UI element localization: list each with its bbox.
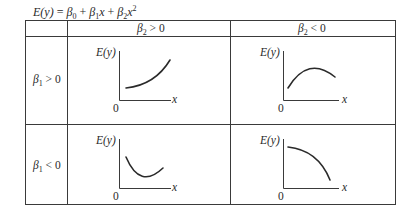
axes-plot-4 <box>284 139 340 189</box>
inequality: > 0 <box>43 73 61 85</box>
curve-concave-decreasing <box>288 147 330 180</box>
x-axis-label: x <box>342 93 347 105</box>
axes-plot-1 <box>120 51 172 101</box>
y-axis-label: E(y) <box>260 134 280 146</box>
origin-label: 0 <box>113 190 119 202</box>
origin-label: 0 <box>278 102 284 114</box>
x-axis-label: x <box>342 181 347 193</box>
column-header-beta2-negative: β2 < 0 <box>298 22 326 37</box>
curve-convex-valley <box>126 157 163 177</box>
x-axis-label: x <box>172 93 177 105</box>
table-outline <box>26 21 396 205</box>
row-header-beta1-positive: β1 > 0 <box>33 73 61 88</box>
table-borders <box>25 20 396 205</box>
inequality: < 0 <box>43 159 61 171</box>
origin-label: 0 <box>278 190 284 202</box>
y-axis-label: E(y) <box>96 134 116 146</box>
curve-convex-increasing <box>126 60 170 88</box>
origin-label: 0 <box>113 102 119 114</box>
inequality: < 0 <box>308 22 326 34</box>
curve-concave-peak <box>288 68 335 88</box>
shape-table-grid <box>0 0 413 216</box>
y-axis-label: E(y) <box>96 46 116 58</box>
inequality: > 0 <box>147 22 165 34</box>
y-axis-label: E(y) <box>260 46 280 58</box>
x-axis-label: x <box>172 181 177 193</box>
axes-plot-3 <box>120 139 172 189</box>
row-header-beta1-negative: β1 < 0 <box>33 159 61 174</box>
plot-axes <box>120 51 340 189</box>
column-header-beta2-positive: β2 > 0 <box>137 22 165 37</box>
axes-plot-2 <box>284 51 340 101</box>
